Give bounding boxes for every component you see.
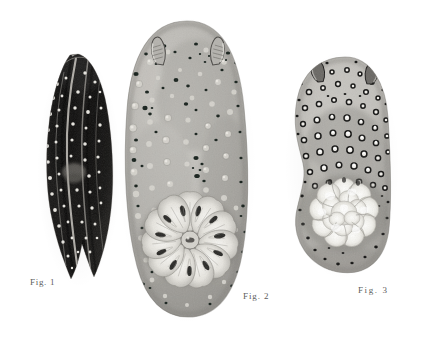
figure-2-specimen	[117, 14, 257, 326]
figure-3-caption: Fig. 3	[358, 285, 389, 295]
figure-1-caption: Fig. 1	[30, 277, 55, 287]
figure-3-specimen	[284, 49, 400, 281]
figure-1-specimen	[36, 48, 122, 288]
illustration-plate: Fig. 1 Fig. 2 Fig. 3	[0, 0, 437, 338]
figure-2-caption: Fig. 2	[243, 291, 269, 301]
